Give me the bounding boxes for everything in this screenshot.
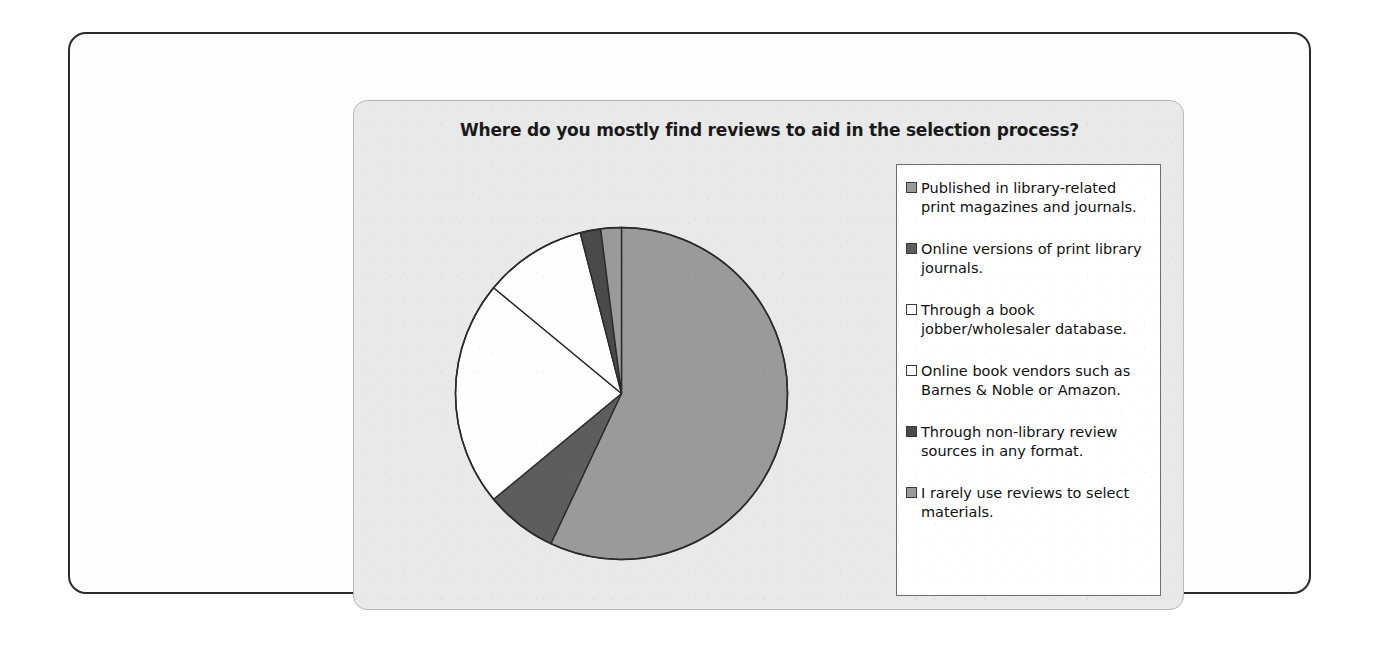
legend-swatch-icon [906,487,917,498]
chart-title: Where do you mostly find reviews to aid … [354,120,1185,140]
legend-item-label: Online versions of print library journal… [921,240,1150,278]
legend-swatch-icon [906,304,917,315]
legend-swatch-icon [906,365,917,376]
legend-item[interactable]: Through a book jobber/wholesaler databas… [906,301,1150,339]
pie-slices [455,228,787,560]
page-frame: Where do you mostly find reviews to aid … [68,32,1311,594]
legend-item-label: Through non-library review sources in an… [921,423,1150,461]
legend-item[interactable]: I rarely use reviews to select materials… [906,484,1150,522]
legend-item-label: Published in library-related print magaz… [921,179,1150,217]
pie-chart [449,221,794,566]
chart-panel: Where do you mostly find reviews to aid … [353,100,1184,610]
legend-swatch-icon [906,243,917,254]
legend-swatch-icon [906,426,917,437]
legend-item[interactable]: Published in library-related print magaz… [906,179,1150,217]
legend-item-label: I rarely use reviews to select materials… [921,484,1150,522]
chart-legend: Published in library-related print magaz… [896,164,1161,596]
legend-swatch-icon [906,182,917,193]
pie-chart-svg [449,221,794,566]
legend-item[interactable]: Online book vendors such as Barnes & Nob… [906,362,1150,400]
legend-item-label: Online book vendors such as Barnes & Nob… [921,362,1150,400]
legend-item[interactable]: Through non-library review sources in an… [906,423,1150,461]
legend-item-label: Through a book jobber/wholesaler databas… [921,301,1150,339]
legend-item[interactable]: Online versions of print library journal… [906,240,1150,278]
